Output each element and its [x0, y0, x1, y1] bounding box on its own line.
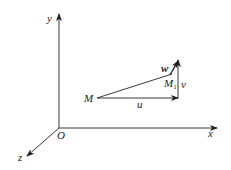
label-x: x [207, 127, 213, 139]
label-w: w [161, 62, 169, 74]
label-origin: O [57, 129, 65, 141]
vector-w [170, 61, 178, 75]
label-z: z [17, 151, 23, 163]
z-axis [27, 128, 59, 156]
label-u: u [137, 98, 143, 110]
segment-M-M1 [97, 74, 172, 98]
vector-diagram: y x z O M u v w M1 [0, 0, 231, 170]
label-M1: M1 [163, 77, 177, 91]
label-y: y [46, 12, 52, 24]
label-v: v [181, 78, 186, 90]
label-M: M [83, 92, 94, 104]
